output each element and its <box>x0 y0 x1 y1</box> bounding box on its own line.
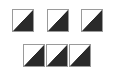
diagonal-tile-icon <box>46 44 68 67</box>
diagonal-tile-icon <box>23 44 45 67</box>
diagonal-tile-icon <box>81 9 103 32</box>
diagonal-tile-icon <box>47 9 69 32</box>
diagonal-tile-icon <box>12 9 34 32</box>
diagonal-tile-icon <box>69 44 91 67</box>
